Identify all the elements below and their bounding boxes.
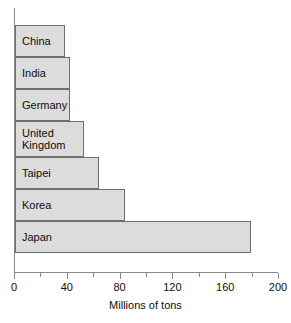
x-axis-tick [199, 273, 200, 277]
x-axis-tick [146, 273, 147, 277]
x-axis-tick-label: 120 [163, 281, 181, 294]
x-axis-tick [172, 273, 173, 279]
x-axis-title: Millions of tons [0, 299, 291, 312]
x-axis-tick-label: 40 [61, 281, 73, 294]
x-axis-tick-label: 0 [11, 281, 17, 294]
x-axis-tick [120, 273, 121, 279]
x-axis-tick [278, 273, 279, 279]
bar-row: Taipei [15, 157, 99, 189]
plot-area: ChinaIndiaGermanyUnited KingdomTaipeiKor… [0, 0, 291, 272]
x-axis-tick [14, 273, 15, 279]
bar-row: Korea [15, 189, 125, 221]
bar-row: United Kingdom [15, 121, 84, 157]
bar [15, 89, 70, 121]
bar-chart: ChinaIndiaGermanyUnited KingdomTaipeiKor… [0, 0, 291, 323]
bar [15, 25, 65, 57]
bar [15, 57, 70, 89]
x-axis-tick [225, 273, 226, 279]
x-axis-tick [40, 273, 41, 277]
x-axis-tick [252, 273, 253, 277]
bar [15, 221, 251, 253]
bar [15, 157, 99, 189]
x-axis-tick-label: 200 [269, 281, 287, 294]
x-axis-tick [93, 273, 94, 277]
x-axis-tick-label: 160 [216, 281, 234, 294]
bar-row: Japan [15, 221, 251, 253]
bar [15, 121, 84, 157]
bar [15, 189, 125, 221]
bar-row: China [15, 25, 65, 57]
bar-row: Germany [15, 89, 70, 121]
x-axis-tick [67, 273, 68, 279]
bar-row: India [15, 57, 70, 89]
x-axis-tick-label: 80 [113, 281, 125, 294]
